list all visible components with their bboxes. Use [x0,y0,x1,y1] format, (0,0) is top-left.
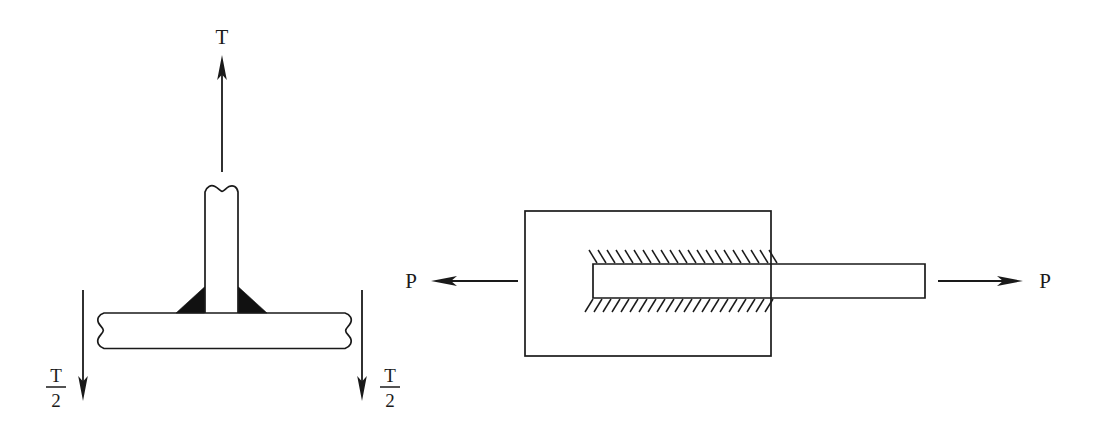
load-arrow-right [938,276,1023,286]
left-diagram-tee-joint: T T 2 T 2 [46,25,400,411]
outer-block [525,211,771,356]
label-reaction-right-T-over-2: T 2 [380,365,400,411]
horizontal-plate [98,313,352,349]
figure-canvas: T T 2 T 2 [0,0,1096,445]
reaction-arrow-left-down [78,290,88,401]
label-reaction-right-numerator: T [384,365,396,386]
label-load-P-right: P [1039,269,1051,293]
label-reaction-left-numerator: T [50,365,62,386]
load-arrow-up [217,55,227,172]
weld-hatch-top [589,250,777,263]
label-reaction-left-denominator: 2 [51,390,61,411]
right-diagram-lap-joint: P P [405,211,1051,356]
inner-bar [593,264,925,298]
reaction-arrow-right-down [357,290,367,401]
label-load-P-left: P [405,269,417,293]
label-reaction-right-denominator: 2 [385,390,395,411]
figure-root: T T 2 T 2 [0,0,1096,445]
fillet-weld-right [239,287,268,313]
vertical-plate [205,186,238,313]
fillet-weld-left [176,287,205,313]
weld-hatch-bottom [585,299,773,312]
label-reaction-left-T-over-2: T 2 [46,365,66,411]
label-load-T: T [216,25,229,49]
load-arrow-left [431,276,518,286]
